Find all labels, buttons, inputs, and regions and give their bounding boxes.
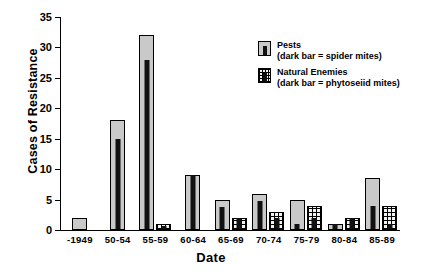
bar-pests[interactable] bbox=[290, 200, 305, 230]
bar-pests[interactable] bbox=[328, 224, 343, 230]
bar-pair bbox=[215, 200, 230, 230]
legend-item: Natural Enemies(dark bar = phytoseiid mi… bbox=[258, 67, 400, 90]
bar-group bbox=[174, 17, 212, 230]
x-axis-tick-label: 60-64 bbox=[174, 234, 212, 245]
y-axis-tick bbox=[55, 17, 60, 18]
bar-inner-dark bbox=[295, 224, 300, 229]
bar-pair bbox=[382, 206, 397, 230]
bar-enemies[interactable] bbox=[269, 212, 284, 230]
x-axis-tick-label: 65-69 bbox=[212, 234, 250, 245]
y-axis-tick bbox=[55, 108, 60, 109]
legend-series-name: Natural Enemies bbox=[277, 67, 400, 78]
legend-series-note: (dark bar = phytoseiid mites) bbox=[277, 78, 400, 89]
y-axis-tick-label: 15 bbox=[40, 133, 52, 145]
bar-enemies[interactable] bbox=[232, 218, 247, 230]
bar-pair bbox=[185, 175, 200, 230]
bar-inner-dark bbox=[237, 218, 242, 229]
bar-pair bbox=[252, 194, 267, 231]
bar-group bbox=[61, 17, 99, 230]
bar-inner-dark bbox=[387, 224, 392, 229]
x-axis-title: Date bbox=[0, 250, 422, 265]
bar-inner-dark bbox=[350, 218, 355, 229]
bar-group bbox=[136, 17, 174, 230]
x-axis-tick-label: 55-59 bbox=[137, 234, 175, 245]
x-axis-tick-label: 75-79 bbox=[288, 234, 326, 245]
bar-pair bbox=[110, 120, 125, 230]
legend-swatch-enemies bbox=[258, 68, 271, 83]
y-axis-tick bbox=[55, 47, 60, 48]
bar-pair bbox=[269, 212, 284, 230]
x-axis-tick-label: -1949 bbox=[61, 234, 99, 245]
legend-label: Pests(dark bar = spider mites) bbox=[277, 40, 382, 63]
bar-enemies[interactable] bbox=[307, 206, 322, 230]
y-axis-tick-label: 5 bbox=[46, 194, 52, 206]
y-axis-tick bbox=[55, 78, 60, 79]
bar-pests[interactable] bbox=[72, 218, 87, 230]
bar-enemies[interactable] bbox=[156, 224, 171, 230]
legend-item: Pests(dark bar = spider mites) bbox=[258, 40, 400, 63]
bar-enemies[interactable] bbox=[382, 206, 397, 230]
legend-series-name: Pests bbox=[277, 40, 382, 51]
bar-pair bbox=[72, 218, 87, 230]
y-axis-tick bbox=[55, 200, 60, 201]
bar-pair bbox=[365, 178, 380, 230]
bar-pests[interactable] bbox=[185, 175, 200, 230]
legend-swatch-pests bbox=[258, 41, 271, 56]
chart-figure: Cases of Resistance 05101520253035 -1949… bbox=[0, 0, 422, 275]
bar-inner-dark bbox=[115, 139, 120, 229]
y-axis-tick-label: 30 bbox=[40, 41, 52, 53]
bar-inner-dark bbox=[274, 218, 279, 229]
y-axis-tick-label: 0 bbox=[46, 224, 52, 236]
bar-inner-dark bbox=[161, 226, 166, 229]
bar-pair bbox=[290, 200, 305, 230]
bar-pests[interactable] bbox=[139, 35, 154, 230]
y-axis-tick-label: 35 bbox=[40, 11, 52, 23]
x-axis-tick-labels: -194950-5455-5960-6465-6970-7475-7980-84… bbox=[61, 234, 401, 245]
chart-legend: Pests(dark bar = spider mites)Natural En… bbox=[258, 40, 400, 93]
x-axis-tick-label: 80-84 bbox=[325, 234, 363, 245]
bar-pair bbox=[156, 224, 171, 230]
y-axis-tick-label: 10 bbox=[40, 163, 52, 175]
bar-pests[interactable] bbox=[215, 200, 230, 230]
bar-inner-dark bbox=[333, 224, 338, 229]
bar-pests[interactable] bbox=[365, 178, 380, 230]
bar-pair bbox=[345, 218, 360, 230]
bar-pests[interactable] bbox=[110, 120, 125, 230]
bar-pair bbox=[232, 218, 247, 230]
x-axis-tick-label: 85-89 bbox=[363, 234, 401, 245]
bar-group bbox=[99, 17, 137, 230]
x-axis-tick-label: 70-74 bbox=[250, 234, 288, 245]
bar-inner-dark bbox=[144, 60, 149, 229]
bar-pair bbox=[328, 224, 343, 230]
y-axis-tick-label: 25 bbox=[40, 72, 52, 84]
bar-enemies[interactable] bbox=[345, 218, 360, 230]
bar-group bbox=[212, 17, 250, 230]
x-axis-tick-label: 50-54 bbox=[99, 234, 137, 245]
y-axis-title: Cases of Resistance bbox=[26, 16, 40, 206]
bar-inner-dark bbox=[370, 206, 375, 229]
y-axis-tick-label: 20 bbox=[40, 102, 52, 114]
legend-label: Natural Enemies(dark bar = phytoseiid mi… bbox=[277, 67, 400, 90]
y-axis-tick bbox=[55, 169, 60, 170]
x-axis-line bbox=[60, 230, 400, 231]
y-axis-tick bbox=[55, 230, 60, 231]
bar-inner-dark bbox=[190, 175, 195, 229]
bar-inner-dark bbox=[220, 207, 225, 229]
y-axis-tick bbox=[55, 139, 60, 140]
bar-inner-dark bbox=[257, 201, 262, 229]
bar-pair bbox=[307, 206, 322, 230]
bar-inner-dark bbox=[312, 218, 317, 229]
legend-series-note: (dark bar = spider mites) bbox=[277, 51, 382, 62]
bar-pair bbox=[139, 35, 154, 230]
bar-pests[interactable] bbox=[252, 194, 267, 231]
